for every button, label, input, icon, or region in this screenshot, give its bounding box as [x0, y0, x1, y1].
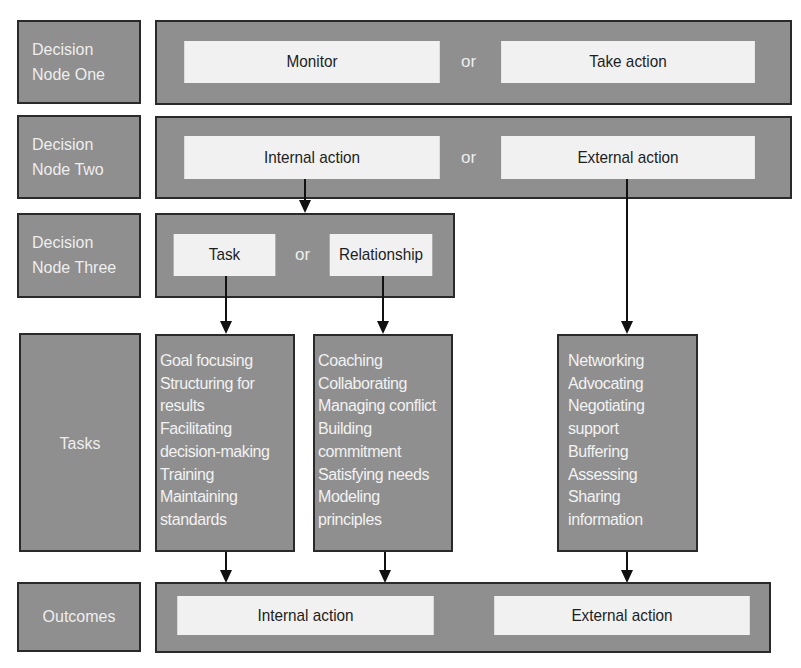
external-item: Networking — [568, 350, 645, 373]
external-item: Advocating — [568, 373, 645, 396]
external-list: Networking Advocating Negotiating suppor… — [568, 350, 645, 532]
connector-relationship-to-list — [382, 276, 384, 323]
connector-relationship-list-to-outcome — [384, 552, 386, 572]
external-item: Negotiating — [568, 395, 645, 418]
task-item: standards — [160, 509, 270, 532]
node-three-label-line1: Decision — [32, 230, 116, 255]
relationship-list: Coaching Collaborating Managing conflict… — [318, 350, 436, 532]
relationship-item: Collaborating — [318, 373, 436, 396]
node-one-label-line1: Decision — [32, 37, 105, 62]
task-item: Facilitating — [160, 418, 270, 441]
node-one-or: or — [461, 52, 476, 72]
outcomes-label-box: Outcomes — [17, 582, 141, 652]
task-item: Training — [160, 464, 270, 487]
relationship-item: principles — [318, 509, 436, 532]
outcomes-label: Outcomes — [19, 604, 139, 629]
node-three-label-box: Decision Node Three — [17, 213, 141, 298]
task-item: Maintaining — [160, 486, 270, 509]
external-item: Buffering — [568, 441, 645, 464]
node-one-label-box: Decision Node One — [17, 20, 141, 104]
arrow-down-icon — [621, 321, 633, 334]
connector-task-to-list — [225, 276, 227, 323]
connector-task-list-to-outcome — [225, 552, 227, 572]
relationship-item: Building — [318, 418, 436, 441]
task-item: Structuring for — [160, 373, 270, 396]
external-item: Sharing — [568, 486, 645, 509]
node-one-label-line2: Node One — [32, 62, 105, 87]
internal-action-option: Internal action — [184, 136, 440, 179]
relationship-item: Managing conflict — [318, 395, 436, 418]
task-list: Goal focusing Structuring for results Fa… — [160, 350, 270, 532]
external-item: Assessing — [568, 464, 645, 487]
external-action-option: External action — [501, 136, 755, 179]
node-two-or: or — [461, 148, 476, 168]
connector-external-to-tasks — [626, 179, 628, 323]
relationship-item: commitment — [318, 441, 436, 464]
external-item: information — [568, 509, 645, 532]
task-item: results — [160, 395, 270, 418]
tasks-label: Tasks — [21, 431, 139, 456]
take-action-option: Take action — [501, 41, 755, 83]
tasks-label-box: Tasks — [19, 333, 141, 552]
node-three-label-line2: Node Three — [32, 255, 116, 280]
node-two-label-box: Decision Node Two — [17, 115, 141, 199]
external-list-box: Networking Advocating Negotiating suppor… — [557, 334, 698, 552]
arrow-down-icon — [377, 321, 389, 334]
task-option: Task — [174, 234, 276, 276]
node-two-label-line1: Decision — [32, 132, 104, 157]
relationship-item: Coaching — [318, 350, 436, 373]
arrow-down-icon — [220, 321, 232, 334]
relationship-item: Modeling — [318, 486, 436, 509]
arrow-down-icon — [299, 200, 311, 213]
monitor-option: Monitor — [184, 41, 440, 83]
node-three-or: or — [295, 245, 310, 265]
connector-external-list-to-outcome — [626, 552, 628, 572]
relationship-list-box: Coaching Collaborating Managing conflict… — [313, 334, 453, 552]
outcome-external-action: External action — [494, 596, 750, 635]
relationship-option: Relationship — [330, 234, 433, 276]
task-list-box: Goal focusing Structuring for results Fa… — [155, 334, 295, 552]
external-item: support — [568, 418, 645, 441]
task-item: Goal focusing — [160, 350, 270, 373]
relationship-item: Satisfying needs — [318, 464, 436, 487]
outcome-internal-action: Internal action — [177, 596, 434, 635]
task-item: decision-making — [160, 441, 270, 464]
node-two-label-line2: Node Two — [32, 157, 104, 182]
